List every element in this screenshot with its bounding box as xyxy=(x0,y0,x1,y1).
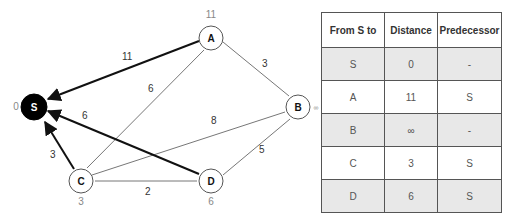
table-header-row: From S to Distance Predecessor xyxy=(322,13,502,48)
dist-c: 3 xyxy=(78,196,84,207)
table-row: A 11 S xyxy=(322,81,502,114)
edge-c-b xyxy=(92,112,285,175)
weight-c-s: 3 xyxy=(50,149,56,160)
table-row: S 0 - xyxy=(322,48,502,81)
cell-node: B xyxy=(322,114,385,147)
edge-c-s xyxy=(45,122,74,169)
weight-a-s: 11 xyxy=(122,51,133,62)
cell-node: A xyxy=(322,81,385,114)
cell-distance: 6 xyxy=(385,180,438,213)
cell-predecessor: S xyxy=(438,81,502,114)
cell-node: C xyxy=(322,147,385,180)
cell-predecessor: S xyxy=(438,180,502,213)
node-a-label: A xyxy=(207,33,214,44)
edge-a-b xyxy=(223,42,289,96)
weight-d-s: 6 xyxy=(82,110,88,121)
node-b-label: B xyxy=(294,102,301,113)
cell-predecessor: - xyxy=(438,114,502,147)
cell-node: S xyxy=(322,48,385,81)
weight-a-b: 3 xyxy=(262,58,268,69)
cell-node: D xyxy=(322,180,385,213)
table-row: D 6 S xyxy=(322,180,502,213)
dist-s: 0 xyxy=(13,101,19,112)
node-d-label: D xyxy=(207,176,214,187)
dist-a: 11 xyxy=(206,9,217,20)
weight-c-d: 2 xyxy=(145,186,151,197)
node-s-label: S xyxy=(31,102,38,113)
distance-table: From S to Distance Predecessor S 0 - A 1… xyxy=(321,12,502,213)
table-row: C 3 S xyxy=(322,147,502,180)
edge-d-b xyxy=(223,119,290,175)
edge-a-s xyxy=(48,41,199,99)
cell-predecessor: - xyxy=(438,48,502,81)
edge-c-a xyxy=(87,50,204,168)
header-from: From S to xyxy=(322,13,385,48)
header-distance: Distance xyxy=(385,13,438,48)
cell-predecessor: S xyxy=(438,147,502,180)
dist-b: ∞ xyxy=(314,104,319,111)
weight-d-b: 5 xyxy=(259,144,265,155)
graph-diagram: 11 6 3 8 6 3 2 5 S A B C D 0 11 ∞ 3 6 xyxy=(0,0,320,221)
table-row: B ∞ - xyxy=(322,114,502,147)
dist-d: 6 xyxy=(208,196,214,207)
cell-distance: 3 xyxy=(385,147,438,180)
header-predecessor: Predecessor xyxy=(438,13,502,48)
weight-c-a: 6 xyxy=(148,83,154,94)
weight-c-b: 8 xyxy=(211,115,217,126)
node-c-label: C xyxy=(77,176,84,187)
cell-distance: ∞ xyxy=(385,114,438,147)
cell-distance: 0 xyxy=(385,48,438,81)
cell-distance: 11 xyxy=(385,81,438,114)
